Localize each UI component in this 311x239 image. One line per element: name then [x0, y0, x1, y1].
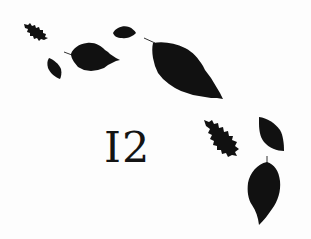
- large-leaf-icon: [143, 36, 225, 102]
- oak-leaf-icon: [22, 22, 50, 42]
- small-leaf-icon: [112, 25, 137, 40]
- small-leaf-icon: [46, 57, 63, 80]
- large-leaf-icon: [246, 155, 282, 227]
- serrated-leaf-icon: [63, 40, 123, 74]
- chapter-number: I2: [104, 124, 150, 170]
- oval-leaf-icon: [257, 115, 285, 153]
- chapter-page: I2: [0, 0, 311, 239]
- oak-leaf-icon: [202, 118, 240, 158]
